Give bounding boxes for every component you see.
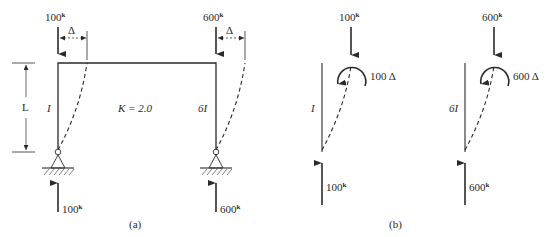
frame-diagram-canvas — [0, 0, 550, 237]
left-top-load-label: 100k — [45, 12, 65, 23]
deflected-shape-right — [216, 63, 245, 150]
left-column-inertia-label: I — [47, 103, 51, 114]
deflected-shape-left — [58, 63, 87, 150]
col2-reaction-label: 600k — [469, 182, 489, 193]
panel-b-free-bodies — [322, 27, 509, 205]
panel-a-frame — [12, 27, 245, 212]
col1-moment-label: 100 Δ — [370, 71, 396, 82]
left-reaction-label: 100k — [62, 204, 82, 215]
col1-reaction-label: 100k — [326, 182, 346, 193]
height-label: L — [22, 102, 29, 113]
right-reaction-label: 600k — [220, 204, 240, 215]
right-column-inertia-label: 6I — [198, 103, 207, 114]
right-top-load-label: 600k — [203, 12, 223, 23]
col2-top-load-label: 600k — [482, 12, 502, 23]
col2-moment-label: 600 Δ — [513, 71, 539, 82]
stiffness-label: K = 2.0 — [118, 103, 152, 114]
panel-a-caption: (a) — [129, 219, 141, 230]
left-drift-label: Δ — [68, 25, 75, 36]
col1-top-load-label: 100k — [339, 12, 359, 23]
panel-b-caption: (b) — [389, 219, 402, 230]
col1-inertia-label: I — [311, 103, 315, 114]
right-drift-label: Δ — [226, 25, 233, 36]
col2-inertia-label: 6I — [449, 103, 458, 114]
